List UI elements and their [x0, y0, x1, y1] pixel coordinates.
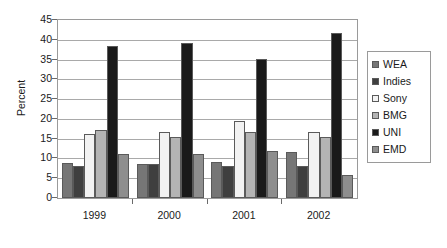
bar-emd-2002[interactable]	[342, 175, 353, 198]
y-axis-tickmark	[52, 197, 57, 198]
legend-item-label: Indies	[383, 76, 411, 87]
y-axis-tick-label: 45	[30, 14, 52, 24]
legend-swatch-icon	[372, 61, 379, 68]
y-axis-tick-label: 5	[30, 172, 52, 182]
legend-item-label: BMG	[383, 110, 407, 121]
y-axis-tickmark	[52, 98, 57, 99]
y-axis-title: Percent	[15, 63, 27, 133]
legend-item-label: UNI	[383, 127, 401, 138]
bar-bmg-2001[interactable]	[245, 132, 256, 198]
bar-uni-2002[interactable]	[331, 33, 342, 198]
y-axis-tick-label: 25	[30, 93, 52, 103]
bar-uni-2001[interactable]	[256, 59, 267, 198]
bar-sony-2002[interactable]	[308, 132, 319, 198]
legend-item-sony[interactable]: Sony	[372, 90, 427, 107]
bar-bmg-1999[interactable]	[95, 130, 106, 198]
bar-emd-2001[interactable]	[267, 151, 278, 198]
legend-swatch-icon	[372, 112, 379, 119]
legend-item-wea[interactable]: WEA	[372, 56, 427, 73]
bar-wea-2001[interactable]	[211, 162, 222, 198]
legend-item-bmg[interactable]: BMG	[372, 107, 427, 124]
y-axis-tickmark	[52, 78, 57, 79]
x-axis-tick-label-2000: 2000	[132, 209, 207, 221]
bar-sony-1999[interactable]	[84, 134, 95, 198]
y-axis-tick-label: 30	[30, 73, 52, 83]
plot-area	[57, 19, 358, 199]
y-axis-tick-labels: 051015202530354045	[30, 19, 52, 199]
legend-swatch-icon	[372, 146, 379, 153]
y-axis-tickmark	[52, 157, 57, 158]
chart-legend: WEAIndiesSonyBMGUNIEMD	[367, 51, 431, 163]
y-axis-tickmark	[52, 138, 57, 139]
bar-indies-2001[interactable]	[222, 166, 233, 198]
x-axis-tick-label-1999: 1999	[57, 209, 132, 221]
bar-group	[282, 20, 357, 198]
x-axis-tick-label-2002: 2002	[281, 209, 356, 221]
x-axis-tick-label-2001: 2001	[207, 209, 282, 221]
bar-wea-2002[interactable]	[286, 152, 297, 198]
bar-indies-2000[interactable]	[148, 164, 159, 198]
bar-sony-2000[interactable]	[159, 132, 170, 198]
y-axis-tickmark	[52, 19, 57, 20]
legend-item-uni[interactable]: UNI	[372, 124, 427, 141]
bar-wea-2000[interactable]	[137, 164, 148, 198]
x-axis-tickmark	[207, 199, 208, 204]
legend-swatch-icon	[372, 95, 379, 102]
bar-group	[208, 20, 283, 198]
x-axis-tickmark	[132, 199, 133, 204]
bar-indies-1999[interactable]	[73, 166, 84, 198]
y-axis-tickmark	[52, 177, 57, 178]
bar-indies-2002[interactable]	[297, 166, 308, 198]
y-axis-tick-label: 40	[30, 34, 52, 44]
bar-uni-1999[interactable]	[107, 46, 118, 198]
bar-uni-2000[interactable]	[181, 43, 192, 198]
bar-bmg-2000[interactable]	[170, 137, 181, 198]
bar-wea-1999[interactable]	[62, 163, 73, 198]
bar-bmg-2002[interactable]	[320, 137, 331, 198]
legend-item-label: WEA	[383, 59, 407, 70]
bar-chart: Percent 051015202530354045 WEAIndiesSony…	[0, 0, 447, 248]
y-axis-tick-label: 15	[30, 133, 52, 143]
legend-item-label: EMD	[383, 144, 406, 155]
bar-sony-2001[interactable]	[234, 121, 245, 198]
y-axis-tickmark	[52, 39, 57, 40]
y-axis-tick-label: 0	[30, 192, 52, 202]
y-axis-tick-label: 10	[30, 152, 52, 162]
legend-item-emd[interactable]: EMD	[372, 141, 427, 158]
legend-swatch-icon	[372, 129, 379, 136]
x-axis-tickmark	[281, 199, 282, 204]
legend-item-label: Sony	[383, 93, 407, 104]
bar-emd-1999[interactable]	[118, 154, 129, 198]
bar-group	[133, 20, 208, 198]
bar-emd-2000[interactable]	[193, 154, 204, 198]
y-axis-tick-label: 35	[30, 54, 52, 64]
y-axis-tickmark	[52, 59, 57, 60]
legend-item-indies[interactable]: Indies	[372, 73, 427, 90]
y-axis-tickmark	[52, 118, 57, 119]
y-axis-tick-label: 20	[30, 113, 52, 123]
bar-group	[58, 20, 133, 198]
legend-swatch-icon	[372, 78, 379, 85]
